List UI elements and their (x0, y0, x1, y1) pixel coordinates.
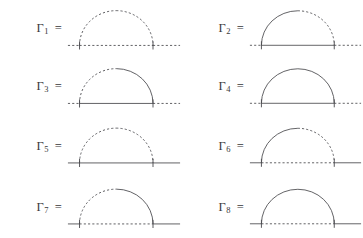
arc-left-half (80, 128, 117, 163)
gamma-symbol: Γ (218, 21, 225, 35)
diagram-canvas (248, 0, 363, 58)
arc-right-half (298, 189, 334, 224)
equals-sign: = (231, 79, 244, 93)
diagram-label-6: Γ6= (182, 140, 248, 153)
diagram-cell-3: Γ3= (0, 58, 182, 116)
equals-sign: = (49, 79, 62, 93)
gamma-symbol: Γ (36, 79, 43, 93)
gamma-symbol: Γ (36, 200, 43, 214)
diagram-canvas (66, 116, 182, 177)
diagram-label-5: Γ5= (0, 140, 66, 153)
diagram-label-8: Γ8= (182, 201, 248, 214)
arc-left-half (261, 189, 297, 224)
diagram-6 (248, 116, 363, 177)
diagram-grid: Γ1=Γ2=Γ3=Γ4=Γ5=Γ6=Γ7=Γ8= (0, 0, 363, 238)
diagram-cell-1: Γ1= (0, 0, 182, 58)
diagram-3 (66, 58, 182, 116)
gamma-symbol: Γ (36, 139, 43, 153)
diagram-label-1: Γ1= (0, 22, 66, 35)
diagram-8 (248, 177, 363, 238)
gamma-symbol: Γ (218, 200, 225, 214)
diagram-cell-4: Γ4= (182, 58, 363, 116)
diagram-canvas (66, 0, 182, 58)
diagram-label-2: Γ2= (182, 22, 248, 35)
equals-sign: = (231, 139, 244, 153)
diagram-cell-8: Γ8= (182, 177, 363, 238)
arc-right-half (116, 128, 153, 163)
arc-left-half (261, 128, 297, 163)
diagram-4 (248, 58, 363, 116)
arc-left-half (80, 11, 117, 46)
diagram-cell-7: Γ7= (0, 177, 182, 238)
diagram-canvas (248, 58, 363, 116)
diagram-label-7: Γ7= (0, 201, 66, 214)
gamma-symbol: Γ (218, 79, 225, 93)
arc-right-half (298, 11, 334, 46)
diagram-2 (248, 0, 363, 58)
diagram-canvas (66, 177, 182, 238)
equals-sign: = (231, 200, 244, 214)
gamma-symbol: Γ (218, 139, 225, 153)
equals-sign: = (231, 21, 244, 35)
diagram-label-3: Γ3= (0, 80, 66, 93)
equals-sign: = (49, 21, 62, 35)
diagram-7 (66, 177, 182, 238)
arc-left-half (80, 189, 117, 224)
diagram-cell-6: Γ6= (182, 116, 363, 177)
diagram-1 (66, 0, 182, 58)
arc-right-half (116, 189, 153, 224)
diagram-canvas (248, 177, 363, 238)
arc-right-half (298, 128, 334, 163)
diagram-cell-2: Γ2= (182, 0, 363, 58)
arc-right-half (116, 11, 153, 46)
diagram-canvas (66, 58, 182, 116)
arc-left-half (261, 11, 297, 46)
diagram-label-4: Γ4= (182, 80, 248, 93)
arc-left-half (80, 69, 117, 104)
equals-sign: = (49, 139, 62, 153)
diagram-canvas (248, 116, 363, 177)
arc-left-half (261, 69, 297, 104)
arc-right-half (298, 69, 334, 104)
diagram-cell-5: Γ5= (0, 116, 182, 177)
equals-sign: = (49, 200, 62, 214)
diagram-5 (66, 116, 182, 177)
gamma-symbol: Γ (36, 21, 43, 35)
arc-right-half (116, 69, 153, 104)
